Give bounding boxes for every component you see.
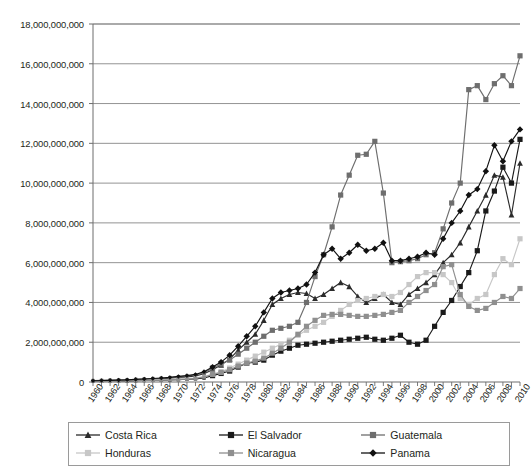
legend-marker-square-icon (360, 429, 386, 441)
legend-marker-square-icon (75, 447, 101, 459)
x-axis-tick-label: 1966 (137, 382, 157, 404)
legend-label: Nicaragua (248, 448, 296, 459)
x-axis-tick-label: 2000 (427, 382, 447, 404)
legend-item-honduras[interactable]: Honduras (75, 444, 218, 462)
legend-marker-square-icon (218, 447, 244, 459)
legend-marker-diamond-icon (360, 447, 386, 459)
legend-item-panama[interactable]: Panama (360, 444, 503, 462)
legend-label: Guatemala (390, 430, 442, 441)
x-axis-tick-label: 1976 (222, 382, 242, 404)
x-axis-tick-label: 1990 (341, 382, 361, 404)
y-axis-tick-label: 18,000,000,000 (20, 19, 84, 30)
legend-item-costa-rica[interactable]: Costa Rica (75, 426, 218, 444)
x-axis-tick-label: 1986 (307, 382, 327, 404)
y-axis-tick-label: 8,000,000,000 (25, 217, 84, 228)
x-axis-tick-label: 1998 (410, 382, 430, 404)
y-axis-tick-label: 2,000,000,000 (25, 337, 84, 348)
x-axis-tick-label: 1974 (205, 382, 225, 404)
x-axis-tick-label: 2004 (461, 382, 481, 404)
x-axis-tick-label: 2006 (478, 382, 498, 404)
x-axis-tick-label: 1960 (85, 382, 105, 404)
x-axis-tick-label: 1982 (273, 382, 293, 404)
legend-label: Panama (390, 448, 429, 459)
y-axis-tick-label: 4,000,000,000 (25, 297, 84, 308)
x-axis-tick-label: 1992 (359, 382, 379, 404)
x-axis-tick-label: 2002 (444, 382, 464, 404)
y-axis-tick-label: 10,000,000,000 (20, 178, 84, 189)
line-chart: 02,000,000,0004,000,000,0006,000,000,000… (0, 0, 531, 476)
y-axis-tick-label: 16,000,000,000 (20, 58, 84, 69)
x-axis-tick-label: 1978 (239, 382, 259, 404)
legend-label: Costa Rica (105, 430, 157, 441)
y-axis: 02,000,000,0004,000,000,0006,000,000,000… (0, 0, 84, 418)
x-axis-tick-label: 1972 (188, 382, 208, 404)
y-axis-tick-label: 14,000,000,000 (20, 98, 84, 109)
x-axis-tick-label: 1980 (256, 382, 276, 404)
x-axis: 1960196219641966196819701972197419761978… (0, 382, 531, 422)
x-axis-tick-label: 1964 (119, 382, 139, 404)
legend-marker-square-icon (218, 429, 244, 441)
legend-marker-triangle-icon (75, 429, 101, 441)
x-axis-tick-label: 1984 (290, 382, 310, 404)
x-axis-tick-label: 1968 (154, 382, 174, 404)
x-axis-tick-label: 1962 (102, 382, 122, 404)
y-axis-tick-label: 6,000,000,000 (25, 257, 84, 268)
legend-item-el-salvador[interactable]: El Salvador (218, 426, 361, 444)
x-axis-tick-label: 1988 (324, 382, 344, 404)
x-axis-tick-label: 1996 (393, 382, 413, 404)
legend-item-nicaragua[interactable]: Nicaragua (218, 444, 361, 462)
legend-label: Honduras (105, 448, 151, 459)
legend-item-guatemala[interactable]: Guatemala (360, 426, 503, 444)
x-axis-tick-label: 2008 (495, 382, 515, 404)
chart-legend: Costa RicaEl SalvadorGuatemalaHondurasNi… (68, 422, 510, 466)
x-axis-tick-label: 1970 (171, 382, 191, 404)
legend-label: El Salvador (248, 430, 302, 441)
x-axis-tick-label: 2010 (512, 382, 531, 404)
y-axis-tick-label: 12,000,000,000 (20, 138, 84, 149)
x-axis-tick-label: 1994 (376, 382, 396, 404)
